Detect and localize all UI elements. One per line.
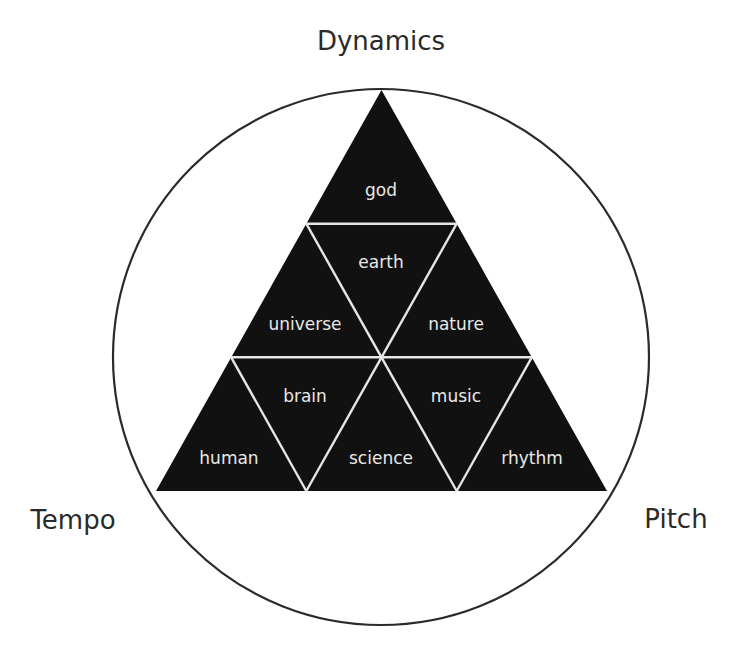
dynamics-tempo-pitch-diagram: Dynamics Tempo Pitch god earth universe …: [0, 0, 736, 653]
cell-label-science: science: [349, 448, 413, 468]
cell-label-human: human: [199, 448, 258, 468]
cell-label-brain: brain: [283, 386, 327, 406]
cell-label-god: god: [365, 180, 397, 200]
cell-label-rhythm: rhythm: [501, 448, 563, 468]
cell-label-earth: earth: [358, 252, 403, 272]
axis-label-pitch: Pitch: [644, 504, 707, 534]
cell-label-music: music: [431, 386, 481, 406]
main-triangle: [156, 90, 607, 491]
cell-label-universe: universe: [268, 314, 341, 334]
axis-label-dynamics: Dynamics: [317, 26, 445, 56]
cell-label-nature: nature: [428, 314, 484, 334]
axis-label-tempo: Tempo: [29, 505, 115, 535]
